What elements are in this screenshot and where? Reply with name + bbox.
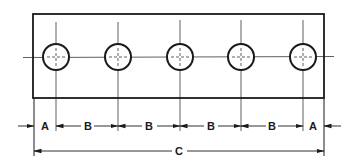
hole-4: [228, 44, 254, 70]
vertical-centerlines: [56, 20, 303, 131]
hole-1: [43, 44, 69, 70]
dimension-label-b-2: B: [145, 121, 153, 132]
dimension-label-b-4: B: [268, 121, 276, 132]
dimension-label-b-3: B: [207, 121, 215, 132]
hole-3: [167, 44, 193, 70]
hole-5: [290, 44, 316, 70]
dimension-label-a-left: A: [41, 121, 49, 132]
hole-2: [105, 44, 131, 70]
dimension-label-b-1: B: [84, 121, 92, 132]
dimension-label-c: C: [175, 146, 183, 157]
plate-drawing: [0, 0, 357, 160]
dimension-label-a-right: A: [309, 121, 317, 132]
